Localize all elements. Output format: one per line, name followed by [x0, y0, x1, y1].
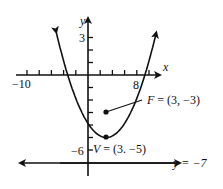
y-tick-label-neg6: −6 [71, 144, 84, 158]
y-axis-label: y [79, 14, 86, 28]
y-tick-label-3: 3 [79, 31, 85, 45]
directrix-line: y = −7 [20, 156, 208, 170]
parabola-curve [56, 32, 156, 137]
chart-canvas: x −10 8 y 3 −6 y = −7 F = (3, −3 [0, 0, 223, 189]
vertex-label: V = (3. −5) [93, 142, 146, 156]
x-tick-label-neg10: −10 [12, 77, 31, 91]
parabola-chart: x −10 8 y 3 −6 y = −7 F = (3, −3 [0, 0, 223, 189]
focus-label: F = (3, −3) [146, 93, 200, 107]
focus-point: F = (3, −3) [103, 93, 199, 115]
directrix-label: y = −7 [172, 156, 208, 170]
vertex-point: V = (3. −5) [93, 134, 146, 156]
x-tick-label-8: 8 [133, 78, 139, 92]
x-axis-label: x [162, 60, 169, 74]
